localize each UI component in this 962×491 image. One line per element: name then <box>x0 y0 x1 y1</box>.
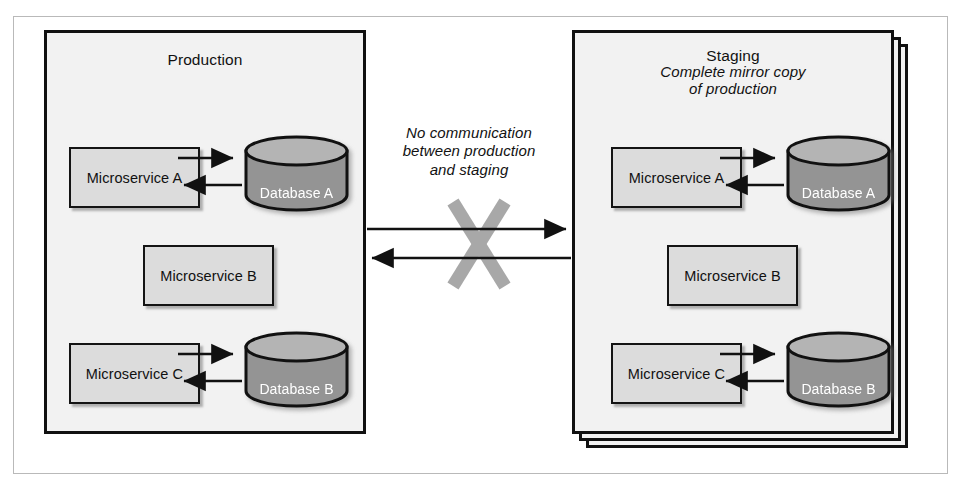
service-label: Microservice B <box>160 268 256 284</box>
service-box-staging-microservice-a[interactable]: Microservice A <box>611 147 742 208</box>
service-label: Microservice C <box>86 366 183 382</box>
staging-subtitle-line-1: Complete mirror copy <box>575 64 891 81</box>
diagram-figure: Production Microservice A Microservice B… <box>0 0 962 491</box>
service-label: Microservice A <box>629 170 725 186</box>
database-cylinder-staging-database-a[interactable]: Database A <box>786 136 891 210</box>
center-annotation-line-1: No communication <box>378 124 560 142</box>
center-annotation-text: No communication between production and … <box>378 124 560 179</box>
service-box-staging-microservice-b[interactable]: Microservice B <box>667 245 798 306</box>
database-cylinder-staging-database-b[interactable]: Database B <box>786 332 891 406</box>
service-box-prod-microservice-b[interactable]: Microservice B <box>143 245 274 306</box>
service-label: Microservice B <box>684 268 780 284</box>
environment-panel-staging[interactable]: Staging Complete mirror copy of producti… <box>572 30 894 434</box>
database-cylinder-prod-database-a[interactable]: Database A <box>244 136 349 210</box>
service-box-prod-microservice-c[interactable]: Microservice C <box>69 343 200 404</box>
cylinder-shape <box>786 332 891 406</box>
service-label: Microservice A <box>87 170 183 186</box>
production-title-block: Production <box>47 51 363 68</box>
service-label: Microservice C <box>628 366 725 382</box>
cylinder-shape <box>244 332 349 406</box>
cylinder-shape <box>244 136 349 210</box>
staging-title-block: Staging Complete mirror copy of producti… <box>575 47 891 98</box>
staging-subtitle-line-2: of production <box>575 81 891 98</box>
no-communication-x-icon <box>443 196 515 292</box>
service-box-prod-microservice-a[interactable]: Microservice A <box>69 147 200 208</box>
center-annotation-line-2: between production <box>378 142 560 160</box>
staging-title: Staging <box>575 47 891 64</box>
production-title: Production <box>47 51 363 68</box>
database-cylinder-prod-database-b[interactable]: Database B <box>244 332 349 406</box>
environment-panel-production[interactable]: Production Microservice A Microservice B… <box>44 30 366 434</box>
service-box-staging-microservice-c[interactable]: Microservice C <box>611 343 742 404</box>
center-annotation-line-3: and staging <box>378 161 560 179</box>
cylinder-shape <box>786 136 891 210</box>
